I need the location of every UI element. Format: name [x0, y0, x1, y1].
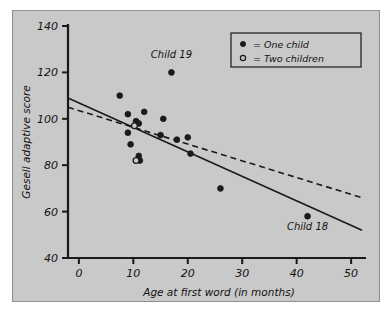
x-tick-label: 0	[75, 267, 82, 280]
legend-label: = One child	[253, 39, 310, 50]
y-tick-label: 80	[44, 159, 58, 172]
y-tick-label: 60	[44, 206, 58, 219]
data-point-one-child	[125, 111, 131, 117]
data-point-two-children	[132, 123, 138, 129]
x-tick-label: 40	[290, 267, 304, 280]
regression-all-data	[68, 98, 362, 230]
data-point-one-child	[305, 213, 311, 219]
x-tick-label: 20	[181, 267, 195, 280]
legend-label: = Two children	[253, 53, 324, 64]
data-point-one-child	[160, 116, 166, 122]
scatter-plot: 40608010012014001020304050 Age at first …	[0, 0, 392, 313]
data-point-one-child	[169, 70, 175, 76]
data-point-one-child	[125, 130, 131, 136]
axis-labels: Age at first word (in months)Gesell adap…	[20, 85, 295, 298]
child-19-label: Child 19	[151, 49, 192, 60]
x-tick-label: 50	[344, 267, 358, 280]
chart-figure: 40608010012014001020304050 Age at first …	[0, 0, 392, 313]
data-point-one-child	[128, 141, 134, 147]
regression-lines	[68, 98, 362, 230]
data-point-one-child	[218, 186, 224, 192]
y-tick-label: 100	[37, 113, 58, 126]
x-tick-label: 30	[235, 267, 249, 280]
legend-marker-two-children	[240, 55, 245, 60]
data-point-two-children	[133, 158, 139, 164]
data-points	[117, 70, 311, 220]
data-point-one-child	[185, 134, 191, 140]
child-18-label: Child 18	[287, 221, 328, 232]
x-tick-label: 10	[126, 267, 140, 280]
y-tick-label: 140	[37, 20, 58, 33]
data-point-one-child	[174, 137, 180, 143]
y-tick-label: 120	[37, 66, 58, 79]
data-point-one-child	[188, 151, 194, 157]
legend: = One child= Two children	[231, 33, 361, 67]
data-point-one-child	[158, 132, 164, 138]
data-point-one-child	[141, 109, 147, 115]
y-tick-label: 40	[44, 252, 58, 265]
data-point-one-child	[117, 93, 123, 99]
y-axis-title: Gesell adaptive score	[20, 85, 32, 198]
legend-marker-one-child	[240, 41, 245, 46]
regression-excluding-outliers	[68, 107, 362, 197]
x-axis-title: Age at first word (in months)	[142, 286, 295, 298]
